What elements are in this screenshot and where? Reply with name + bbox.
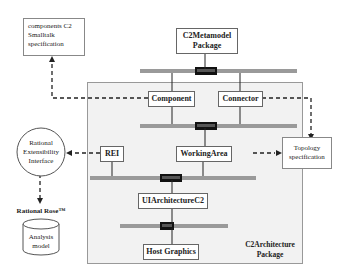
c2metamodel-label-1: C2Metamodel xyxy=(183,31,231,41)
bus-1 xyxy=(140,69,297,73)
analysis-model-database[interactable]: Analysis model xyxy=(23,233,59,251)
hostgraphics-label: Host Graphics xyxy=(146,247,196,257)
connector-label: Connector xyxy=(223,94,259,104)
rational-extensibility-interface[interactable]: Rational Extensibility Interface xyxy=(17,139,65,166)
bus-2 xyxy=(140,124,297,128)
hostgraphics-box[interactable]: Host Graphics xyxy=(143,244,199,260)
database-line2: model xyxy=(23,242,59,251)
workingarea-box[interactable]: WorkingArea xyxy=(176,146,232,162)
database-line1: Analysis xyxy=(23,233,59,242)
rose-label-text: Rational Rose™ xyxy=(17,207,66,215)
interface-line1: Rational xyxy=(17,139,65,148)
architecture-diagram: C2Metamodel Package Component Connector … xyxy=(0,0,345,275)
arch-label-1: C2Architecture xyxy=(240,240,300,250)
smalltalk-note-line2: Smalltalk xyxy=(28,31,80,40)
topology-note-line2: specification xyxy=(287,153,327,162)
rei-box[interactable]: REI xyxy=(100,146,124,162)
topology-spec-note[interactable]: Topology specification xyxy=(282,137,332,169)
interface-line2: Extensibility xyxy=(17,148,65,157)
topology-note-line1: Topology xyxy=(287,144,327,153)
smalltalk-note-line3: specification xyxy=(28,40,80,49)
smalltalk-note-line1: components C2 xyxy=(28,22,80,31)
uiarchitecture-label: UIArchitectureC2 xyxy=(142,196,204,206)
interface-line3: Interface xyxy=(17,157,65,166)
uiarchitecture-box[interactable]: UIArchitectureC2 xyxy=(138,193,208,209)
smalltalk-spec-note[interactable]: components C2 Smalltalk specification xyxy=(23,18,85,56)
rational-rose-label: Rational Rose™ xyxy=(5,206,77,216)
connector-box[interactable]: Connector xyxy=(218,91,263,107)
c2architecture-package-label: C2Architecture Package xyxy=(240,240,300,260)
c2metamodel-package-box[interactable]: C2Metamodel Package xyxy=(176,28,238,54)
workingarea-label: WorkingArea xyxy=(181,149,228,159)
c2metamodel-label-2: Package xyxy=(193,41,221,51)
component-box[interactable]: Component xyxy=(148,91,195,107)
component-label: Component xyxy=(151,94,191,104)
arch-label-2: Package xyxy=(240,250,300,260)
rei-label: REI xyxy=(105,149,119,159)
